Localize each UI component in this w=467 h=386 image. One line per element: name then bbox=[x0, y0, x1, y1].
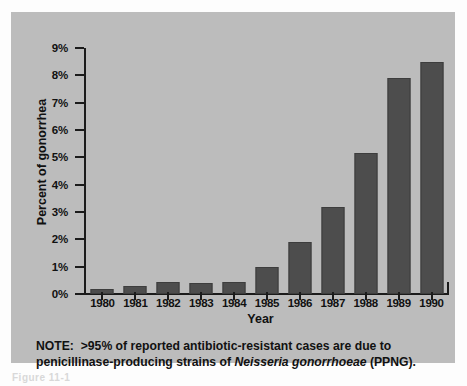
bar-group[interactable]: 1987 bbox=[316, 48, 349, 294]
plot-area: 0%1%2%3%4%5%6%7%8%9% 1980198119821983198… bbox=[73, 32, 455, 308]
bar-group[interactable]: 1990 bbox=[415, 48, 448, 294]
y-axis-tick: 5% bbox=[73, 156, 84, 158]
y-axis-tick-mark bbox=[75, 102, 84, 104]
y-axis-tick-label: 2% bbox=[52, 233, 68, 245]
y-axis-tick: 4% bbox=[73, 184, 84, 186]
bar-group[interactable]: 1981 bbox=[119, 48, 152, 294]
y-axis-tick-label: 1% bbox=[52, 260, 68, 272]
y-axis-tick-label: 5% bbox=[52, 151, 68, 163]
y-axis-tick-mark bbox=[75, 156, 84, 158]
bar-group[interactable]: 1985 bbox=[251, 48, 284, 294]
y-axis-tick-mark bbox=[75, 293, 84, 295]
y-axis-tick-mark bbox=[75, 184, 84, 186]
note-text-after: (PPNG). bbox=[370, 355, 416, 369]
x-axis-tick-label: 1985 bbox=[255, 297, 279, 309]
x-axis-tick-label: 1980 bbox=[90, 297, 114, 309]
x-axis-title: Year bbox=[73, 312, 448, 326]
y-axis-tick-mark bbox=[75, 129, 84, 131]
bar[interactable] bbox=[387, 78, 410, 294]
y-axis-tick-mark bbox=[75, 74, 84, 76]
y-axis-tick-mark bbox=[75, 211, 84, 213]
note-lead: NOTE: bbox=[36, 339, 74, 353]
y-axis-tick: 7% bbox=[73, 102, 84, 104]
y-axis-tick-label: 9% bbox=[52, 42, 68, 54]
x-axis-tick-label: 1981 bbox=[123, 297, 147, 309]
y-axis-tick-mark bbox=[75, 47, 84, 49]
y-axis-tick-label: 0% bbox=[52, 288, 68, 300]
y-axis-tick-label: 7% bbox=[52, 96, 68, 108]
x-axis-tick-label: 1987 bbox=[321, 297, 345, 309]
chart-panel: Percent of gonorrhea 0%1%2%3%4%5%6%7%8%9… bbox=[11, 12, 455, 363]
bar-group[interactable]: 1982 bbox=[152, 48, 185, 294]
y-axis-tick: 3% bbox=[73, 211, 84, 213]
x-axis-tick-label: 1989 bbox=[386, 297, 410, 309]
y-axis-title-label: Percent of gonorrhea bbox=[35, 99, 49, 225]
x-axis-tick-label: 1988 bbox=[354, 297, 378, 309]
y-axis-tick-mark bbox=[75, 266, 84, 268]
x-axis-tick-label: 1986 bbox=[288, 297, 312, 309]
bar-group[interactable]: 1986 bbox=[283, 48, 316, 294]
bar[interactable] bbox=[288, 242, 311, 294]
bar-group[interactable]: 1988 bbox=[349, 48, 382, 294]
x-axis-tick-label: 1982 bbox=[156, 297, 180, 309]
bar-series: 1980198119821983198419851986198719881989… bbox=[86, 48, 448, 294]
y-axis-tick: 1% bbox=[73, 266, 84, 268]
bar[interactable] bbox=[255, 267, 278, 294]
bar-group[interactable]: 1984 bbox=[218, 48, 251, 294]
note-species-name: Neisseria gonorrhoeae bbox=[234, 355, 366, 369]
y-axis-tick: 8% bbox=[73, 74, 84, 76]
y-axis-tick: 2% bbox=[73, 238, 84, 240]
bar-group[interactable]: 1983 bbox=[185, 48, 218, 294]
y-axis-tick-label: 8% bbox=[52, 69, 68, 81]
figure-root: Percent of gonorrhea 0%1%2%3%4%5%6%7%8%9… bbox=[0, 0, 467, 386]
y-axis-tick-label: 6% bbox=[52, 124, 68, 136]
bar-group[interactable]: 1980 bbox=[86, 48, 119, 294]
y-axis-tick-label: 4% bbox=[52, 178, 68, 190]
x-axis-tick-label: 1990 bbox=[419, 297, 443, 309]
y-axis-title: Percent of gonorrhea bbox=[31, 52, 53, 272]
y-axis-tick-mark bbox=[75, 238, 84, 240]
bar[interactable] bbox=[321, 207, 344, 294]
x-axis-tick-label: 1983 bbox=[189, 297, 213, 309]
bar[interactable] bbox=[354, 153, 377, 294]
figure-caption-stub: Figure 11-1 bbox=[12, 372, 70, 383]
bar[interactable] bbox=[420, 62, 443, 294]
y-axis-tick: 9% bbox=[73, 47, 84, 49]
y-axis-tick-label: 3% bbox=[52, 206, 68, 218]
figure-note: NOTE: >95% of reported antibiotic-resist… bbox=[36, 338, 454, 370]
bar-group[interactable]: 1989 bbox=[382, 48, 415, 294]
y-axis-tick: 0% bbox=[73, 293, 84, 295]
x-axis-tick-label: 1984 bbox=[222, 297, 246, 309]
y-axis-tick: 6% bbox=[73, 129, 84, 131]
